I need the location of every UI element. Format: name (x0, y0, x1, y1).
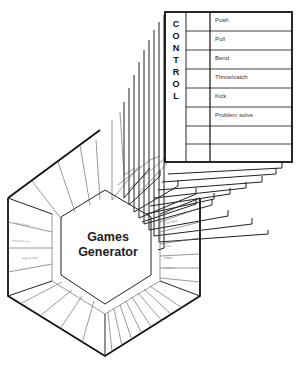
category-letter: N (168, 42, 184, 54)
category-letter: T (168, 54, 184, 66)
category-letter: O (168, 30, 184, 42)
category-letter: O (168, 78, 184, 90)
category-letter: C (168, 18, 184, 30)
card-row-label: Problem solve (215, 112, 253, 118)
right-panel-label: Outdoor (164, 266, 175, 271)
center-title: Games Generator (70, 230, 146, 260)
card-category: C O N T R O L (168, 18, 184, 102)
card-row-label: Kick (215, 93, 226, 99)
center-title-line1: Games (70, 230, 146, 245)
card-row-label: Throw/catch (215, 74, 248, 80)
games-generator-diagram (0, 0, 298, 365)
center-title-line2: Generator (70, 245, 146, 260)
control-card (165, 12, 292, 162)
category-letter: R (168, 66, 184, 78)
card-row-label: Push (215, 17, 229, 23)
card-row-label: Pull (215, 36, 225, 42)
right-panel-label: Static (164, 244, 172, 249)
right-panel-label: Indoor (164, 256, 173, 260)
card-row-label: Bend (215, 55, 229, 61)
category-letter: L (168, 90, 184, 102)
